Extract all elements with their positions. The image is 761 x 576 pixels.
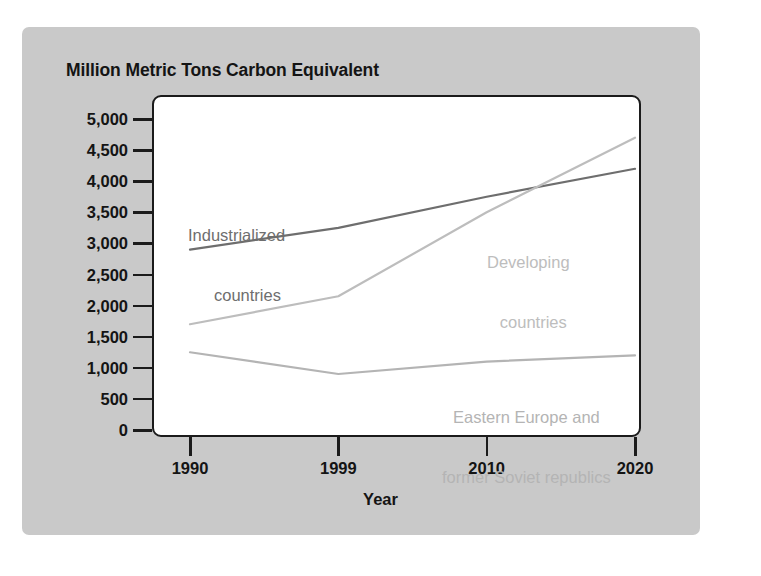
x-tick-label: 1990 [145,459,235,478]
series-label-eastern: Eastern Europe and former Soviet republi… [442,367,611,527]
chart-figure: Million Metric Tons Carbon Equivalent 05… [0,0,761,576]
series-label-developing-line2: countries [487,312,570,332]
series-label-eastern-line2: former Soviet republics [442,467,611,487]
x-tick-mark [634,437,637,456]
series-label-eastern-line1: Eastern Europe and [442,407,611,427]
x-tick-mark [189,437,192,456]
series-label-developing-line1: Developing [487,252,570,272]
series-label-industrialized: Industrialized countries [188,185,285,345]
x-tick-label: 1999 [293,459,383,478]
series-label-developing: Developing countries [487,212,570,372]
series-label-industrialized-line2: countries [188,285,285,305]
x-axis-title: Year [0,490,761,509]
series-label-industrialized-line1: Industrialized [188,225,285,245]
chart-title: Million Metric Tons Carbon Equivalent [66,60,379,81]
x-tick-mark [337,437,340,456]
